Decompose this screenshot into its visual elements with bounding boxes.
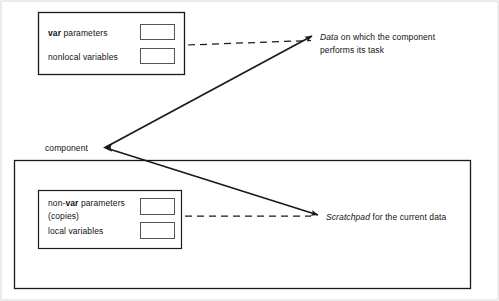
top-row-2-label: nonlocal variables [48, 51, 118, 63]
bottom-row-1-prefix-a: non- [48, 198, 65, 208]
data-callout-emphasis: Data [320, 32, 338, 42]
var-keyword-top: var [48, 28, 61, 38]
scratchpad-callout: Scratchpad for the current data [326, 211, 446, 223]
var-keyword-bottom: var [65, 198, 78, 208]
scratchpad-callout-emphasis: Scratchpad [326, 212, 370, 222]
data-callout-rest: on which the component [338, 32, 435, 42]
bottom-row-1-second-line: (copies) [48, 211, 79, 221]
top-row-1-text: parameters [61, 28, 107, 38]
bottom-row-1-label: non-var parameters (copies) [48, 197, 125, 223]
component-label: component [45, 142, 88, 154]
data-callout: Data on which the component performs its… [320, 31, 435, 57]
scratchpad-callout-rest: for the current data [370, 212, 446, 222]
data-callout-line2: performs its task [320, 45, 384, 55]
bottom-row-1-text: parameters [78, 198, 124, 208]
bottom-row-2-label: local variables [48, 225, 103, 237]
dashed-connector-top [188, 41, 311, 46]
component-arrowhead [103, 143, 112, 151]
top-slot-1 [141, 25, 175, 40]
top-row-1-label: var parameters [48, 27, 108, 39]
bottom-slot-2 [141, 223, 175, 239]
top-slot-2 [141, 49, 175, 64]
diagram-canvas: var parameters nonlocal variables non-va… [0, 0, 499, 301]
bottom-slot-1 [141, 199, 175, 215]
top-component-box [39, 13, 185, 75]
